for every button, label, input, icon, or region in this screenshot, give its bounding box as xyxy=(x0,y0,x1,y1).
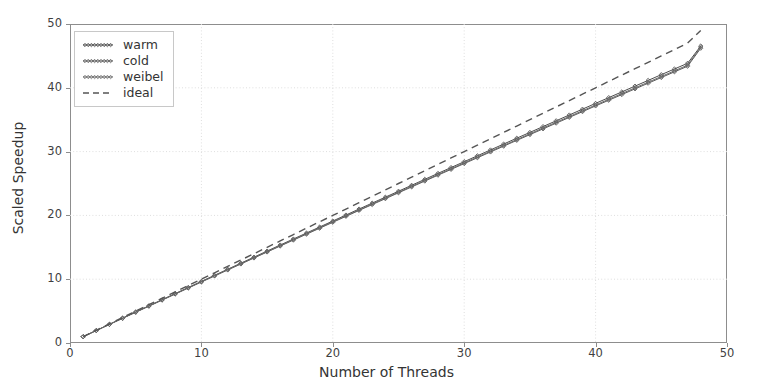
y-tick-mark xyxy=(66,343,70,344)
y-tick-label: 10 xyxy=(34,273,62,285)
y-tick-mark xyxy=(66,24,70,25)
x-tick-label: 10 xyxy=(194,348,209,360)
chart-legend: warmcoldweibelideal xyxy=(74,31,174,107)
series-ideal xyxy=(83,30,701,336)
y-tick-mark xyxy=(66,215,70,216)
y-tick-mark xyxy=(66,279,70,280)
y-axis-label: Scaled Speedup xyxy=(10,98,26,258)
x-tick-label: 30 xyxy=(457,348,472,360)
legend-label: cold xyxy=(123,55,149,68)
legend-swatch-weibel xyxy=(82,71,114,83)
legend-label: ideal xyxy=(123,87,153,100)
legend-label: weibel xyxy=(123,71,164,84)
y-tick-label: 0 xyxy=(34,337,62,349)
y-tick-mark xyxy=(66,88,70,89)
legend-label: warm xyxy=(123,39,158,52)
y-tick-label: 20 xyxy=(34,210,62,222)
y-tick-label: 30 xyxy=(34,146,62,158)
y-tick-label: 40 xyxy=(34,82,62,94)
legend-entry-weibel: weibel xyxy=(82,69,164,85)
chart-figure: 0102030405001020304050 Number of Threads… xyxy=(0,0,773,386)
legend-swatch-cold xyxy=(82,55,114,67)
x-tick-label: 50 xyxy=(720,348,735,360)
legend-swatch-warm xyxy=(82,39,114,51)
legend-entry-cold: cold xyxy=(82,53,164,69)
legend-swatch-ideal xyxy=(82,87,114,99)
x-tick-label: 40 xyxy=(588,348,603,360)
x-axis-label: Number of Threads xyxy=(0,364,773,380)
legend-entry-warm: warm xyxy=(82,37,164,53)
series-weibel xyxy=(81,45,703,339)
legend-entry-ideal: ideal xyxy=(82,85,164,101)
y-tick-label: 50 xyxy=(34,18,62,30)
y-tick-mark xyxy=(66,152,70,153)
x-tick-label: 0 xyxy=(66,348,73,360)
x-tick-label: 20 xyxy=(325,348,340,360)
